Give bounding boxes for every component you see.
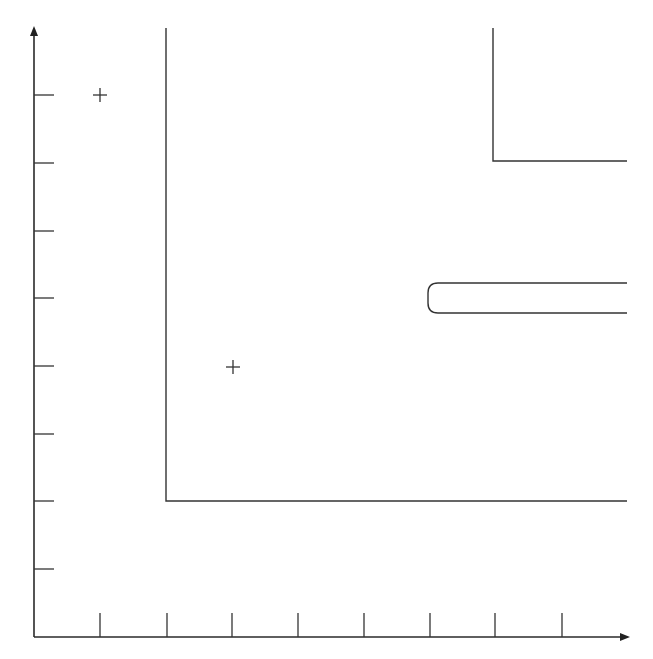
small-l-shape [493,28,627,161]
axes [30,26,630,641]
large-l-shape [166,28,627,501]
y-axis-arrow-icon [30,26,38,36]
rounded-slot [428,283,627,313]
diagram-canvas [0,0,653,659]
shapes [166,28,627,501]
plus-icon-2 [226,360,240,374]
axis-ticks [34,95,562,637]
diagram-svg [0,0,653,659]
plus-icon-1 [93,88,107,102]
x-axis-arrow-icon [620,633,630,641]
